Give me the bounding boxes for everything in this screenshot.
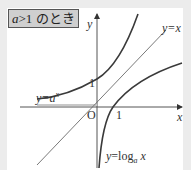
identity-line-label: y=x bbox=[162, 22, 181, 34]
y-tick-1-label: 1 bbox=[89, 77, 95, 89]
x-tick-1-label: 1 bbox=[116, 109, 122, 121]
exponential-curve-label: y=ax bbox=[36, 89, 59, 104]
y-axis-label: y bbox=[87, 18, 92, 30]
logarithm-curve-label: yy=log=loga x bbox=[106, 150, 146, 167]
x-axis-label: x bbox=[177, 111, 182, 123]
origin-label: O bbox=[87, 109, 96, 121]
